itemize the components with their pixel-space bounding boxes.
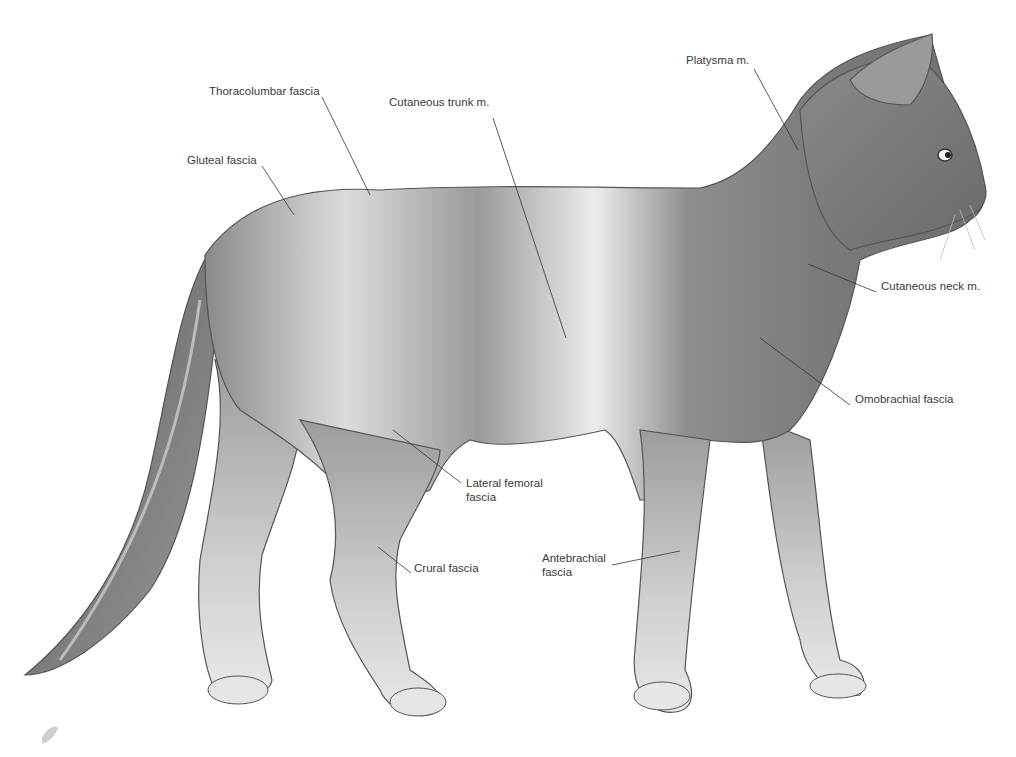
label-thoracolumbar-fascia: Thoracolumbar fascia xyxy=(209,84,320,98)
label-crural-fascia: Crural fascia xyxy=(414,561,479,575)
label-antebrachial-fascia: Antebrachial fascia xyxy=(542,551,606,579)
corner-mark xyxy=(42,726,58,744)
label-gluteal-fascia: Gluteal fascia xyxy=(187,153,257,167)
near-fore-leg xyxy=(634,430,710,712)
label-line: Antebrachial xyxy=(542,551,606,565)
label-cutaneous-neck-m: Cutaneous neck m. xyxy=(881,279,980,293)
tail xyxy=(25,250,215,675)
anatomy-figure: Thoracolumbar fascia Cutaneous trunk m. … xyxy=(0,0,1016,757)
label-cutaneous-trunk-m: Cutaneous trunk m. xyxy=(389,95,489,109)
label-line: Lateral femoral xyxy=(466,476,543,490)
label-lateral-femoral-fascia: Lateral femoral fascia xyxy=(466,476,543,504)
label-omobrachial-fascia: Omobrachial fascia xyxy=(855,392,953,406)
label-line: fascia xyxy=(466,490,543,504)
label-platysma-m: Platysma m. xyxy=(686,53,749,67)
cat-illustration xyxy=(0,0,1016,757)
far-fore-leg xyxy=(760,420,864,696)
label-line: fascia xyxy=(542,565,606,579)
